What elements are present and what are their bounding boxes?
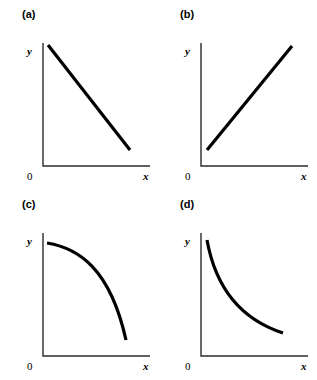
panel-a-x-axis-label: x xyxy=(142,170,149,182)
panel-a-y-axis-label: y xyxy=(25,45,32,57)
panel-b-axes xyxy=(201,43,308,166)
panel-b: (b) y 0 x xyxy=(158,0,316,190)
panel-b-y-axis-label: y xyxy=(183,45,190,57)
panel-c-graph: y 0 x xyxy=(0,190,158,380)
panel-c-curve xyxy=(47,243,126,340)
panel-a-graph: y 0 x xyxy=(0,0,158,190)
panel-c-y-axis-label: y xyxy=(25,235,32,247)
panel-c-axes xyxy=(43,233,150,356)
panel-d-axes xyxy=(201,233,308,356)
panel-c-x-axis-label: x xyxy=(142,360,149,372)
panel-b-graph: y 0 x xyxy=(158,0,316,190)
panel-b-x-axis-label: x xyxy=(300,170,307,182)
panel-c-origin-label: 0 xyxy=(27,360,33,372)
panel-d: (d) y 0 x xyxy=(158,190,316,380)
panel-d-curve xyxy=(207,240,283,333)
figure-four-panel-graphs: (a) y 0 x (b) y 0 x (c) y 0 x (d xyxy=(0,0,317,380)
panel-b-curve xyxy=(207,46,292,150)
panel-c: (c) y 0 x xyxy=(0,190,158,380)
panel-a-origin-label: 0 xyxy=(27,170,33,182)
panel-d-origin-label: 0 xyxy=(185,360,191,372)
panel-d-x-axis-label: x xyxy=(300,360,307,372)
panel-b-origin-label: 0 xyxy=(185,170,191,182)
panel-d-y-axis-label: y xyxy=(183,235,190,247)
panel-d-graph: y 0 x xyxy=(158,190,316,380)
panel-a-curve xyxy=(48,45,130,150)
panel-a: (a) y 0 x xyxy=(0,0,158,190)
